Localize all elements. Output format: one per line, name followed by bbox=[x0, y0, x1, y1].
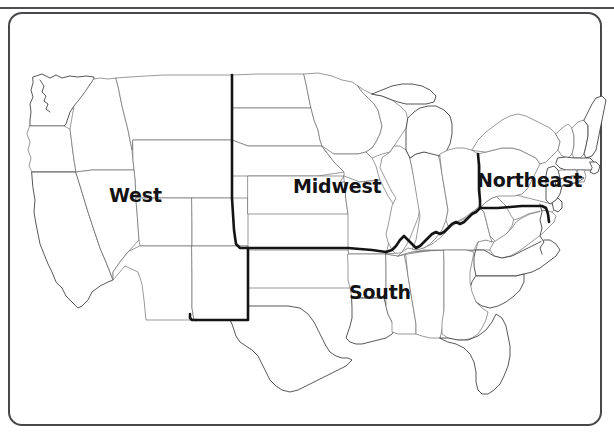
state-oregon bbox=[27, 126, 76, 172]
state-south-carolina bbox=[470, 274, 524, 308]
region-label-midwest: Midwest bbox=[293, 177, 381, 196]
figure-canvas: West Midwest Northeast South bbox=[0, 0, 614, 440]
midwest-region-states bbox=[232, 73, 480, 256]
state-colorado bbox=[192, 198, 248, 246]
state-new-mexico bbox=[192, 246, 248, 320]
region-label-west: West bbox=[109, 186, 162, 205]
state-arizona bbox=[113, 246, 194, 320]
northeast-region-states bbox=[472, 96, 606, 208]
region-label-south: South bbox=[349, 283, 411, 302]
state-south-dakota bbox=[232, 108, 322, 146]
map-svg bbox=[0, 0, 614, 440]
state-montana bbox=[116, 75, 232, 150]
region-label-northeast: Northeast bbox=[477, 171, 582, 190]
state-north-dakota bbox=[232, 74, 311, 108]
us-regions-map: West Midwest Northeast South bbox=[0, 0, 614, 440]
state-oklahoma bbox=[248, 250, 356, 288]
state-michigan-lower bbox=[406, 106, 452, 158]
